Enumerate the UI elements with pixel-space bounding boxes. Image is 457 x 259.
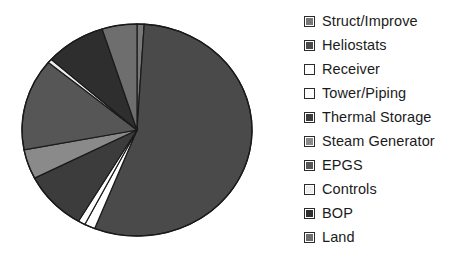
legend-label-controls: Controls (322, 177, 377, 201)
legend-swatch-thermal-storage (304, 112, 315, 123)
swatch-fill (306, 90, 313, 97)
legend-item-epgs[interactable]: EPGS (304, 153, 457, 177)
legend-item-receiver[interactable]: Receiver (304, 57, 457, 81)
swatch-fill (306, 114, 313, 121)
swatch-fill (306, 138, 313, 145)
pie-chart-figure: Struct/Improve Heliostats Receiver Tower… (0, 0, 457, 259)
legend-label-bop: BOP (322, 201, 353, 225)
legend-swatch-land (304, 232, 315, 243)
legend-swatch-steam-generator (304, 136, 315, 147)
legend-label-epgs: EPGS (322, 153, 363, 177)
pie-svg (0, 0, 300, 259)
legend-label-thermal-storage: Thermal Storage (322, 105, 432, 129)
legend-item-bop[interactable]: BOP (304, 201, 457, 225)
legend-swatch-bop (304, 208, 315, 219)
swatch-fill (306, 210, 313, 217)
legend-item-heliostats[interactable]: Heliostats (304, 33, 457, 57)
swatch-fill (306, 162, 313, 169)
legend-item-land[interactable]: Land (304, 225, 457, 249)
legend-item-tower-piping[interactable]: Tower/Piping (304, 81, 457, 105)
legend-swatch-receiver (304, 64, 315, 75)
legend-label-struct-improve: Struct/Improve (322, 9, 418, 33)
legend-swatch-epgs (304, 160, 315, 171)
legend-swatch-tower-piping (304, 88, 315, 99)
legend: Struct/Improve Heliostats Receiver Tower… (300, 0, 457, 259)
legend-item-thermal-storage[interactable]: Thermal Storage (304, 105, 457, 129)
legend-item-struct-improve[interactable]: Struct/Improve (304, 9, 457, 33)
legend-label-receiver: Receiver (322, 57, 380, 81)
pie-slice-group (22, 24, 252, 236)
swatch-fill (306, 234, 313, 241)
legend-item-steam-generator[interactable]: Steam Generator (304, 129, 457, 153)
swatch-fill (306, 42, 313, 49)
swatch-fill (306, 18, 313, 25)
legend-item-controls[interactable]: Controls (304, 177, 457, 201)
legend-label-steam-generator: Steam Generator (322, 129, 435, 153)
swatch-fill (306, 66, 313, 73)
legend-label-heliostats: Heliostats (322, 33, 387, 57)
legend-swatch-heliostats (304, 40, 315, 51)
swatch-fill (306, 186, 313, 193)
legend-swatch-struct-improve (304, 16, 315, 27)
pie-plot-area (0, 0, 300, 259)
legend-label-land: Land (322, 225, 355, 249)
legend-label-tower-piping: Tower/Piping (322, 81, 406, 105)
legend-swatch-controls (304, 184, 315, 195)
